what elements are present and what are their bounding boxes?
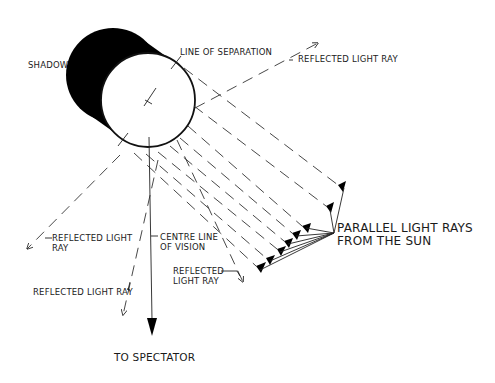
label-reflected-top-right: REFLECTED LIGHT RAY [298, 54, 398, 64]
label-reflected-mid: REFLECTED LIGHT RAY [33, 287, 133, 297]
label-reflected-right-2: LIGHT RAY [173, 276, 219, 286]
label-centre-line-2: OF VISION [160, 242, 205, 252]
label-centre-line-1: CENTRE LINE [160, 232, 218, 242]
label-parallel-rays-2: FROM THE SUN [337, 234, 431, 248]
label-line-of-separation: LINE OF SEPARATION [180, 47, 272, 57]
label-shadow: SHADOW [28, 60, 69, 70]
label-reflected-left-2: RAY [52, 243, 69, 253]
label-reflected-left-1: REFLECTED LIGHT [52, 233, 133, 243]
spectator-arrowhead [147, 318, 157, 336]
label-to-spectator: TO SPECTATOR [113, 351, 195, 363]
label-parallel-rays-1: PARALLEL LIGHT RAYS [337, 221, 473, 235]
reflected-ray-right [177, 140, 243, 282]
label-reflected-right-1: REFLECTED [173, 266, 224, 276]
light-reflection-diagram: SHADOW LINE OF SEPARATION REFLECTED LIGH… [0, 0, 495, 383]
